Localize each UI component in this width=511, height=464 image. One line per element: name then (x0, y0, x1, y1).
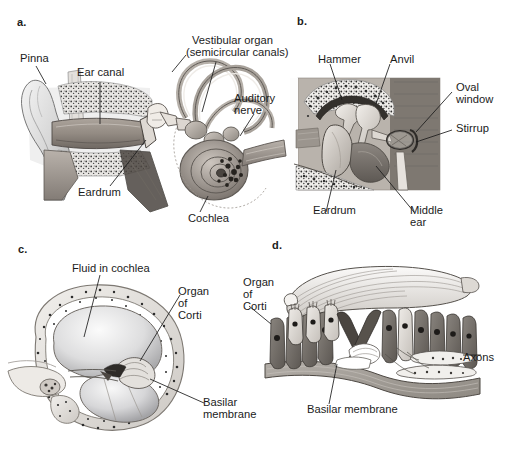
ear-anatomy-figure: a. b. c. d. Pinna Ear canal Vestibular o… (0, 0, 511, 464)
label-auditory-nerve-line1: Auditory (234, 92, 275, 105)
label-middle-ear-line1: Middle (410, 204, 443, 217)
panel-letter-b: b. (297, 15, 307, 27)
label-oval-window-line1: Oval (456, 81, 479, 94)
panel-letter-a: a. (17, 16, 27, 28)
label-anvil: Anvil (390, 53, 414, 66)
label-middle-ear-line2: ear (410, 216, 426, 229)
label-organ-of-corti-d-line1: Organ (243, 276, 274, 289)
label-axons: Axons (463, 351, 494, 364)
panel-letter-d: d. (272, 239, 282, 251)
label-eardrum-panel-a: Eardrum (78, 186, 121, 199)
label-basilar-membrane-c-line2: membrane (203, 408, 256, 421)
label-auditory-nerve-line2: nerve (234, 104, 262, 117)
label-organ-of-corti-c-line2: of (178, 297, 187, 310)
label-pinna: Pinna (20, 52, 49, 65)
panel-c-illustration (8, 275, 223, 445)
panel-d-illustration (265, 258, 480, 408)
panel-letter-c: c. (18, 243, 28, 255)
label-organ-of-corti-d-line3: Corti (243, 300, 267, 313)
label-basilar-membrane-d: Basilar membrane (307, 403, 398, 416)
label-hammer: Hammer (318, 53, 361, 66)
panel-b-illustration (290, 60, 450, 205)
label-basilar-membrane-c-line1: Basilar (203, 396, 237, 409)
label-eardrum-panel-b: Eardrum (313, 204, 356, 217)
label-organ-of-corti-c-line1: Organ (178, 285, 209, 298)
label-fluid-in-cochlea: Fluid in cochlea (72, 262, 150, 275)
label-organ-of-corti-c-line3: Corti (178, 309, 202, 322)
label-ear-canal: Ear canal (77, 66, 124, 79)
label-cochlea: Cochlea (188, 212, 229, 225)
label-organ-of-corti-d-line2: of (243, 288, 252, 301)
label-oval-window-line2: window (456, 93, 493, 106)
label-semicircular-canals: (semicircular canals) (186, 46, 289, 59)
label-vestibular-organ: Vestibular organ (192, 34, 273, 47)
label-stirrup: Stirrup (456, 122, 489, 135)
